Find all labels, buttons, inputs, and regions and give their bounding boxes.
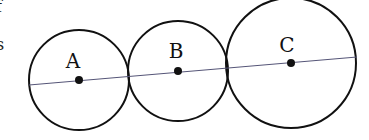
label-b: B xyxy=(169,39,184,63)
center-point-c xyxy=(287,59,295,67)
tangent-circles-diagram: f s A B C xyxy=(0,0,369,140)
clipped-edge-glyph-top: f xyxy=(0,0,3,16)
label-c: C xyxy=(279,33,294,57)
clipped-edge-glyph-middle: s xyxy=(0,35,4,54)
label-a: A xyxy=(65,49,81,73)
center-point-b xyxy=(174,67,182,75)
center-point-a xyxy=(75,76,83,84)
